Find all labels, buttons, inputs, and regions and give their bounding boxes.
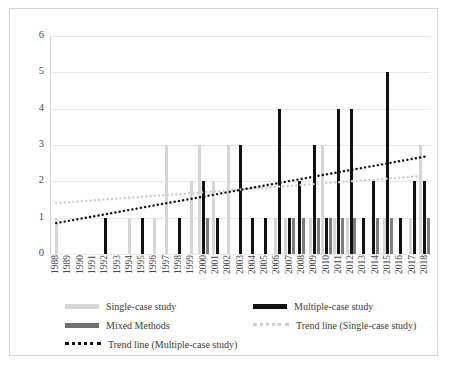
x-axis-tick: 2015 (383, 255, 393, 274)
x-axis-tick-labels: 1988198919901991199219931994199519961997… (50, 255, 431, 299)
legend-item: Single-case study (65, 301, 176, 312)
plot-area (50, 36, 431, 254)
x-axis-tick: 2004 (248, 255, 258, 274)
legend-swatch-icon (65, 304, 99, 309)
x-axis-tick: 2013 (358, 255, 368, 274)
x-axis-tick: 2012 (346, 255, 356, 274)
legend-item: Trend line (Multiple-case study) (65, 339, 237, 350)
legend-item: Trend line (Single-case study) (253, 320, 416, 331)
x-axis-tick: 1998 (174, 255, 184, 274)
chart-frame: 0123456 19881989199019911992199319941995… (9, 8, 438, 356)
legend-swatch-icon (253, 323, 289, 329)
x-axis-tick: 2007 (285, 255, 295, 274)
x-axis-tick: 1992 (100, 255, 110, 274)
x-axis-tick: 1988 (51, 255, 61, 274)
x-axis-tick: 2002 (223, 255, 233, 274)
x-axis-tick: 1995 (137, 255, 147, 274)
x-axis-tick: 2008 (297, 255, 307, 274)
y-axis-tick: 2 (14, 174, 44, 185)
y-axis-tick: 1 (14, 211, 44, 222)
x-axis-tick: 2017 (408, 255, 418, 274)
x-axis-tick: 1990 (76, 255, 86, 274)
x-axis-tick: 1991 (88, 255, 98, 274)
x-axis-tick: 2014 (371, 255, 381, 274)
x-axis-tick: 2018 (420, 255, 430, 274)
legend-swatch-icon (65, 323, 99, 328)
y-axis-tick: 4 (14, 102, 44, 113)
legend-label: Trend line (Multiple-case study) (108, 339, 237, 350)
x-axis-tick: 2010 (322, 255, 332, 274)
legend-item: Multiple-case study (253, 301, 373, 312)
y-axis-tick-labels: 0123456 (10, 36, 48, 254)
y-axis-tick: 0 (14, 247, 44, 258)
y-axis-tick: 3 (14, 138, 44, 149)
x-axis-tick: 2011 (334, 255, 344, 274)
x-axis-tick: 2009 (309, 255, 319, 274)
legend-label: Trend line (Single-case study) (296, 320, 416, 331)
chart-legend: Single-case studyMultiple-case studyMixe… (65, 301, 420, 351)
y-axis-tick: 6 (14, 29, 44, 40)
x-axis-tick: 2006 (272, 255, 282, 274)
legend-swatch-icon (65, 342, 101, 348)
trend-line (56, 176, 425, 203)
legend-swatch-icon (253, 304, 287, 309)
x-axis-tick: 2016 (395, 255, 405, 274)
x-axis-tick: 1997 (162, 255, 172, 274)
x-axis-tick: 2000 (199, 255, 209, 274)
x-axis-tick: 1993 (113, 255, 123, 274)
x-axis-tick: 2005 (260, 255, 270, 274)
x-axis-tick: 2003 (236, 255, 246, 274)
x-axis-tick: 1994 (125, 255, 135, 274)
legend-item: Mixed Methods (65, 320, 170, 331)
legend-label: Multiple-case study (294, 301, 373, 312)
y-axis-tick: 5 (14, 65, 44, 76)
trend-line-group (50, 36, 431, 254)
x-axis-tick: 1989 (63, 255, 73, 274)
legend-label: Mixed Methods (106, 320, 170, 331)
x-axis-tick: 1996 (149, 255, 159, 274)
x-axis-tick: 2001 (211, 255, 221, 274)
legend-label: Single-case study (106, 301, 176, 312)
x-axis-tick: 1999 (186, 255, 196, 274)
